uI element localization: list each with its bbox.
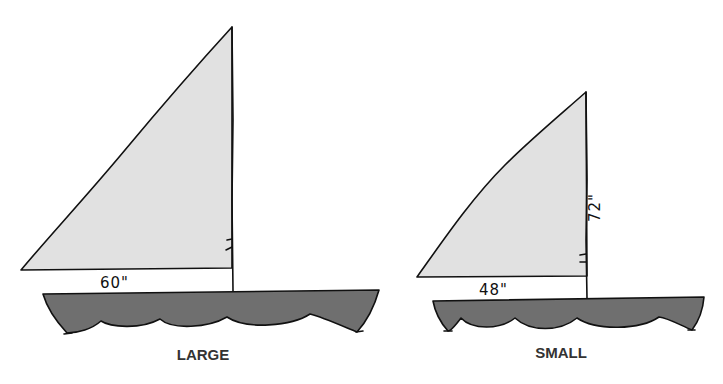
small-sail [417,92,587,277]
large-boat: 60" LARGE [21,27,379,363]
large-base-dimension: 60" [100,274,129,292]
small-base-dimension: 48" [479,281,508,299]
large-caption: LARGE [177,346,230,363]
small-boat: 72" 48" SMALL [417,92,704,361]
large-hull-tail-left [64,333,72,334]
small-height-dimension: 72" [586,193,604,222]
small-hull [433,297,704,331]
large-hull [43,290,379,333]
large-hull-tail-right [356,331,363,332]
large-sail [21,27,232,270]
large-mast [232,27,233,291]
small-caption: SMALL [535,344,587,361]
sailboat-diagram: 60" LARGE 72" 48" SMALL [0,0,723,384]
